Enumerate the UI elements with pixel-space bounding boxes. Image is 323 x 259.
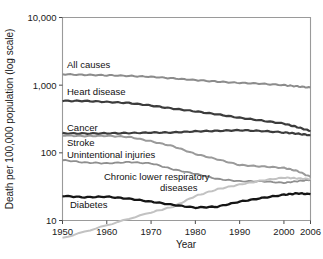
series-label-unintentional-injuries: Unintentional injuries <box>67 149 155 160</box>
series-label-clrd-line2: diseases <box>160 182 198 193</box>
mortality-trends-chart: 10,0001,00010010 19501960197019801990200… <box>0 0 323 259</box>
y-tick-label: 10,000 <box>27 12 56 23</box>
y-axis-title: Death per 100,000 population (log scale) <box>4 29 15 210</box>
y-tick-label: 1,000 <box>33 80 57 91</box>
x-tick-label: 1980 <box>185 226 206 237</box>
x-tick-label: 1990 <box>229 226 250 237</box>
series-label-stroke: Stroke <box>67 137 94 148</box>
y-tick-label: 10 <box>46 215 57 226</box>
series-line-heart-disease <box>63 100 311 131</box>
y-axis-tick-labels: 10,0001,00010010 <box>27 12 56 226</box>
series-label-cancer: Cancer <box>67 122 98 133</box>
series-label-all-causes: All causes <box>67 59 111 70</box>
series-label-diabetes: Diabetes <box>70 199 108 210</box>
x-tick-label: 2000 <box>273 226 294 237</box>
series-label-heart-disease: Heart disease <box>67 86 126 97</box>
y-tick-label: 100 <box>41 147 57 158</box>
x-tick-label: 1950 <box>52 226 73 237</box>
chart-canvas: 10,0001,00010010 19501960197019801990200… <box>0 0 323 259</box>
series-line-cancer <box>63 130 311 135</box>
x-tick-label: 2006 <box>300 226 321 237</box>
series-label-clrd-line1: Chronic lower respiratory <box>104 171 210 182</box>
x-axis-tick-labels: 1950196019701980199020002006 <box>52 226 321 237</box>
x-axis-title: Year <box>176 239 197 250</box>
x-tick-label: 1970 <box>141 226 162 237</box>
x-tick-label: 1960 <box>96 226 117 237</box>
